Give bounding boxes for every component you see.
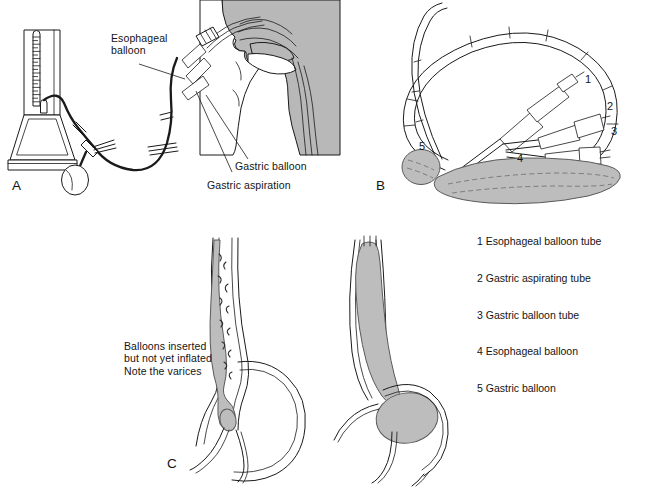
manometer-stand [8, 30, 77, 170]
panel-b-legend: 1 Esophageal balloon tube 2 Gastric aspi… [477, 211, 601, 418]
esophageal-balloon-b [434, 158, 620, 204]
number-label-1: 1 [585, 73, 591, 85]
head-anatomy [200, 0, 340, 155]
figure-root: .ln { fill:none; stroke:#1a1a1a; stroke-… [0, 0, 650, 487]
legend-text-4: Esophageal balloon [486, 345, 578, 357]
legend-row-4: 4 Esophageal balloon [477, 345, 601, 357]
legend-text-2: Gastric aspirating tube [486, 272, 591, 284]
panel-c-caption: Balloons inserted but not yet inflated N… [124, 340, 212, 377]
panel-label-b: B [376, 178, 385, 193]
panel-c-right-artwork [334, 236, 448, 486]
legend-row-2: 2 Gastric aspirating tube [477, 272, 601, 284]
callout-esophageal-balloon: Esophageal balloon [111, 32, 168, 57]
panel-label-c: C [167, 456, 177, 471]
legend-text-3: Gastric balloon tube [486, 309, 579, 321]
number-label-2: 2 [607, 100, 613, 112]
side-port-a [148, 143, 178, 155]
number-label-4: 4 [517, 152, 523, 164]
legend-text-5: Gastric balloon [486, 382, 556, 394]
panel-b-artwork [402, 3, 620, 204]
legend-row-5: 5 Gastric balloon [477, 382, 601, 394]
gastric-balloon-b [402, 150, 440, 185]
number-label-5: 5 [419, 140, 425, 152]
legend-row-3: 3 Gastric balloon tube [477, 309, 601, 321]
callout-gastric-balloon: Gastric balloon [235, 160, 307, 172]
legend-row-1: 1 Esophageal balloon tube [477, 235, 601, 247]
legend-text-1: Esophageal balloon tube [486, 235, 602, 247]
callout-gastric-aspiration: Gastric aspiration [207, 179, 291, 191]
panel-label-a: A [12, 178, 21, 193]
number-label-3: 3 [611, 125, 617, 137]
